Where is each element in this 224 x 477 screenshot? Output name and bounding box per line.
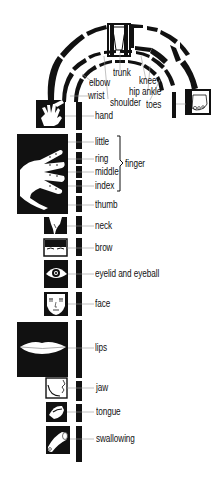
lips-icon [17, 322, 68, 377]
label-little: little [95, 136, 109, 147]
label-neck: neck [95, 220, 112, 231]
label-toes: toes [146, 99, 161, 110]
label-wrist: wrist [88, 90, 104, 101]
brow-icon [44, 239, 67, 256]
label-finger-group: finger [125, 158, 145, 169]
label-ankle: ankle [142, 86, 161, 97]
label-middle: middle [95, 166, 119, 177]
label-face: face [95, 298, 110, 309]
label-shoulder: shoulder [110, 97, 141, 108]
label-eyelid-and-eyeball: eyelid and eyeball [95, 268, 159, 279]
hand-icon [36, 100, 65, 128]
finger-bracket [117, 136, 123, 191]
tongue-icon [46, 402, 67, 422]
fingers-icon [17, 134, 68, 214]
throat-icon [46, 426, 70, 454]
eye-icon [44, 260, 68, 288]
label-elbow: elbow [89, 77, 110, 88]
label-index: index [95, 180, 114, 191]
homunculus-diagram: trunk knee elbow hip ankle wrist shoulde… [0, 0, 224, 477]
label-jaw: jaw [96, 382, 108, 393]
neck-icon [44, 217, 67, 234]
label-brow: brow [95, 242, 112, 253]
motor-column [76, 102, 82, 462]
face-icon [44, 292, 68, 316]
label-ring: ring [95, 153, 108, 164]
label-hand: hand [95, 110, 113, 121]
label-tongue: tongue [96, 406, 121, 417]
label-trunk: trunk [113, 67, 131, 78]
label-lips: lips [95, 342, 107, 353]
label-swallowing: swallowing [96, 433, 135, 444]
jaw-icon [46, 378, 67, 398]
label-thumb: thumb [95, 199, 117, 210]
